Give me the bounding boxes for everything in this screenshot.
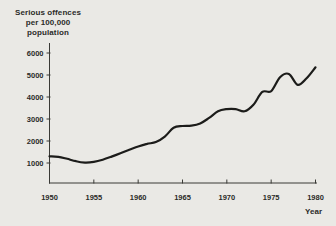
x-tick-label: 1975 [263, 193, 280, 202]
x-tick-label: 1980 [307, 193, 324, 202]
y-tick-label: 4000 [27, 93, 44, 102]
x-tick-label: 1955 [85, 193, 102, 202]
x-tick-label: 1965 [174, 193, 191, 202]
x-axis-label: Year [305, 207, 322, 216]
y-tick-label: 2000 [27, 137, 44, 146]
x-tick-label: 1960 [130, 193, 147, 202]
y-tick-label: 3000 [27, 115, 44, 124]
plot-area: 100020003000400050006000 195019551960196… [0, 0, 336, 226]
y-axis-ticks: 100020003000400050006000 [27, 49, 51, 168]
data-line [50, 67, 316, 162]
y-tick-label: 1000 [27, 159, 44, 168]
crime-rate-figure: Serious offences per 100,000 population … [0, 0, 336, 226]
x-tick-label: 1970 [218, 193, 235, 202]
y-tick-label: 6000 [27, 49, 44, 58]
y-tick-label: 5000 [27, 71, 44, 80]
x-tick-label: 1950 [41, 193, 58, 202]
